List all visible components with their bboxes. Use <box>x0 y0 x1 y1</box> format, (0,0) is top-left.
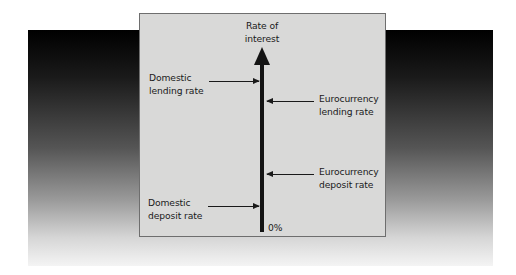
domestic-lending-rate-line2: lending rate <box>149 84 203 97</box>
eurocurrency-lending-rate-label: Eurocurrency lending rate <box>319 92 379 118</box>
eurocurrency-deposit-rate-line1: Eurocurrency <box>319 165 379 178</box>
interest-rate-axis <box>260 56 264 232</box>
domestic-deposit-rate-line2: deposit rate <box>148 209 202 222</box>
domestic-lending-rate-label: Domestic lending rate <box>149 71 203 97</box>
domestic-deposit-rate-label: Domestic deposit rate <box>148 196 202 222</box>
axis-title-line1: Rate of <box>240 19 284 32</box>
interest-rate-diagram-panel: Rate of interest 0% Domestic lending rat… <box>139 13 386 237</box>
eurocurrency-deposit-rate-arrow-icon <box>267 174 314 175</box>
domestic-lending-rate-arrow-icon <box>209 81 259 82</box>
domestic-deposit-rate-line1: Domestic <box>148 196 202 209</box>
axis-title-line2: interest <box>240 32 284 45</box>
domestic-lending-rate-line1: Domestic <box>149 71 203 84</box>
axis-origin-label: 0% <box>268 221 282 234</box>
eurocurrency-lending-rate-arrow-icon <box>267 101 314 102</box>
eurocurrency-lending-rate-line2: lending rate <box>319 105 379 118</box>
eurocurrency-deposit-rate-line2: deposit rate <box>319 178 379 191</box>
eurocurrency-lending-rate-line1: Eurocurrency <box>319 92 379 105</box>
eurocurrency-deposit-rate-label: Eurocurrency deposit rate <box>319 165 379 191</box>
axis-title: Rate of interest <box>240 19 284 45</box>
domestic-deposit-rate-arrow-icon <box>208 206 259 207</box>
